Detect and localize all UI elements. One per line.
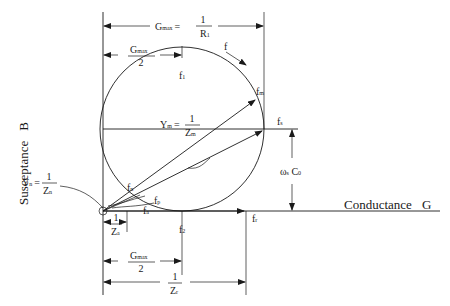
svg-text:Za: Za [111, 226, 120, 237]
svg-text:Ym=: Ym= [160, 119, 180, 130]
svg-text:Zn: Zn [43, 185, 52, 196]
inv-za-label: 1 Za [110, 212, 122, 237]
frequency-direction-arrow [226, 52, 246, 65]
svg-text:1: 1 [201, 14, 206, 25]
f2-label: f2 [179, 224, 185, 235]
fn-label: fn [127, 182, 133, 193]
f-label: f [224, 41, 228, 52]
f1-label: f1 [179, 70, 185, 81]
svg-text:2: 2 [139, 57, 144, 68]
fs-label: fs [277, 116, 283, 127]
svg-text:R1: R1 [200, 28, 210, 39]
svg-text:Gmax=: Gmax= [155, 21, 181, 32]
yn-leader [60, 186, 103, 208]
inv-zr-label: 1 Zr [168, 271, 182, 296]
fs-vector [103, 131, 262, 211]
gmax-label: Gmax= 1 R1 [155, 14, 212, 39]
fp-label: fp [154, 195, 160, 206]
svg-text:1: 1 [47, 171, 52, 182]
fa-label: fa [143, 205, 149, 216]
svg-text:2: 2 [139, 263, 144, 274]
ym-label: Ym= 1 Zm [160, 113, 200, 138]
svg-text:1: 1 [173, 271, 178, 282]
svg-text:Gmax: Gmax [130, 250, 148, 261]
susceptance-axis-label: SusceptanceB [16, 122, 31, 205]
fm-label: fm [256, 86, 264, 97]
svg-text:ωs C0: ωs C0 [280, 166, 301, 177]
fr-label: fr [252, 213, 257, 224]
svg-text:Zr: Zr [170, 285, 178, 296]
svg-text:1: 1 [114, 212, 119, 223]
svg-text:Gmax: Gmax [130, 44, 148, 55]
omega-c0-label: ωs C0 [280, 166, 301, 177]
gmax-half-bottom-label: Gmax 2 [128, 250, 155, 274]
svg-text:1: 1 [190, 113, 195, 124]
conductance-axis-label: ConductanceG [344, 197, 431, 212]
admittance-circle-diagram: Gmax= 1 R1 Gmax 2 Gmax 2 1 Zr 1 Za ωs C0… [0, 0, 450, 306]
